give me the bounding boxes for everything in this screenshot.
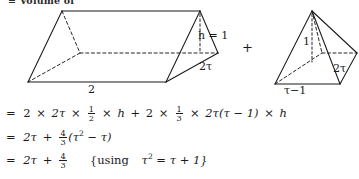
- prism-hidden-left-slant-a: [62, 11, 80, 53]
- eq1-term1-b: 2τ: [52, 106, 66, 120]
- eq1-term1-a: 2: [23, 106, 30, 120]
- eq1-times-1: ×: [36, 106, 46, 120]
- pyramid-slant-label: 2τ: [333, 62, 346, 75]
- eq1-equals: =: [6, 106, 16, 120]
- eq3-note-open: {using: [90, 153, 129, 167]
- eq1-frac1-denominator: 2: [88, 113, 95, 122]
- eq2-term-a: 2τ: [23, 130, 37, 144]
- eq1-frac2-denominator: 3: [176, 113, 183, 122]
- prism-slant-label: 2τ: [199, 60, 212, 73]
- eq1-fraction-half: 1 2: [88, 105, 95, 123]
- eq1-term2-b: 2τ(τ − 1): [205, 106, 258, 120]
- eq1-term2-a: 2: [146, 106, 153, 120]
- eq2-frac-numerator: 4: [59, 129, 66, 137]
- eq2-equals: =: [6, 130, 16, 144]
- eq3-note-rest: = τ + 1}: [156, 153, 207, 167]
- prism-height-label: h = 1: [198, 29, 228, 42]
- eq1-fraction-third: 1 3: [176, 105, 183, 123]
- eq2-frac-denominator: 3: [59, 137, 66, 146]
- eq1-times-6: ×: [264, 106, 274, 120]
- prism-left-front-edge: [28, 11, 62, 82]
- eq2-exponent: 2: [79, 129, 84, 138]
- eq1-times-2: ×: [71, 106, 81, 120]
- eq3-term-a: 2τ: [23, 153, 37, 167]
- equation-line-3: = 2τ + 4 3 {using τ2 = τ + 1}: [6, 151, 208, 169]
- eq3-note-exponent: 2: [148, 152, 153, 161]
- pyramid-hidden-base-left: [275, 53, 322, 84]
- pyramid-height-label: 1: [303, 35, 310, 48]
- eq1-times-4: ×: [159, 106, 169, 120]
- eq2-fraction-four-thirds: 4 3: [59, 129, 66, 147]
- eq3-frac-denominator: 3: [59, 160, 66, 169]
- pyramid-right-edge: [312, 11, 357, 53]
- eq1-times-5: ×: [190, 106, 200, 120]
- triangular-prism-shape: [28, 11, 218, 82]
- eq1-term1-h: h: [117, 106, 124, 120]
- eq1-frac1-numerator: 1: [88, 105, 95, 113]
- eq1-term2-h: h: [279, 106, 286, 120]
- eq1-plus: +: [130, 106, 140, 120]
- eq1-times-3: ×: [102, 106, 112, 120]
- prism-hidden-left-slant-b: [28, 53, 80, 82]
- plus-operator: +: [242, 40, 253, 55]
- eq3-fraction-four-thirds: 4 3: [59, 152, 66, 170]
- eq1-frac2-numerator: 1: [176, 105, 183, 113]
- equation-line-1: = 2 × 2τ × 1 2 × h + 2 × 1 3 × 2τ(τ − 1)…: [6, 104, 287, 122]
- eq2-term-c: − τ): [87, 130, 111, 144]
- eq3-equals: =: [6, 153, 16, 167]
- pyramid-base-label: τ−1: [284, 84, 306, 97]
- eq2-plus: +: [43, 130, 53, 144]
- figure-page: = Volume of: [0, 0, 359, 179]
- eq2-term-b: (τ: [68, 130, 79, 144]
- eq3-plus: +: [43, 153, 53, 167]
- eq3-frac-numerator: 4: [59, 152, 66, 160]
- equation-line-2: = 2τ + 4 3 (τ2 − τ): [6, 128, 112, 146]
- prism-right-front-edge: [166, 11, 200, 82]
- prism-base-label: 2: [88, 83, 95, 96]
